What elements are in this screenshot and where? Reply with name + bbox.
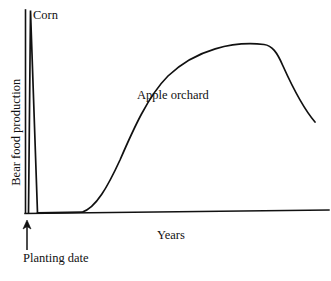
corn-series-line — [29, 11, 38, 214]
planting-date-annotation-label: Planting date — [23, 252, 89, 265]
y-axis-label: Bear food production — [10, 72, 23, 192]
apple-orchard-series-label: Apple orchard — [137, 89, 209, 102]
bear-food-production-chart: Corn Apple orchard Years Planting date B… — [0, 0, 331, 281]
apple-orchard-series-line — [38, 44, 316, 213]
corn-series-label: Corn — [33, 9, 58, 22]
x-axis-label: Years — [157, 229, 185, 242]
planting-date-arrow-icon — [23, 220, 31, 250]
